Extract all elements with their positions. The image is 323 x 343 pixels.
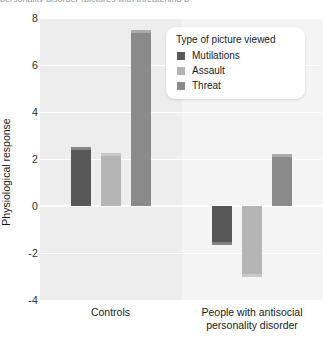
gridline <box>40 300 323 301</box>
bar <box>242 206 262 277</box>
bar-highlight <box>212 242 232 245</box>
y-axis-tick-label: -4 <box>8 294 38 306</box>
gridline <box>40 112 323 113</box>
legend-entry: Threat <box>177 80 296 91</box>
bar-highlight <box>131 30 151 33</box>
y-axis-tick-label: -2 <box>8 247 38 259</box>
x-axis-label-controls: Controls <box>40 306 181 319</box>
legend-swatch-icon <box>177 82 185 90</box>
bar <box>212 206 232 245</box>
bar-highlight <box>101 153 121 156</box>
bar-highlight <box>242 274 262 277</box>
y-axis-tick-label: 8 <box>8 12 38 24</box>
legend-entry-label: Threat <box>192 80 221 91</box>
x-axis-label-antisocial: People with antisocial personality disor… <box>181 306 323 331</box>
y-axis-tick-label: 2 <box>8 153 38 165</box>
bar-highlight <box>272 154 292 157</box>
clipped-caption: personality disorder (pictures with thre… <box>0 0 323 2</box>
legend-entry: Mutilations <box>177 50 296 61</box>
bar <box>131 30 151 206</box>
legend-entries: MutilationsAssaultThreat <box>175 50 296 91</box>
bar-highlight <box>71 147 91 150</box>
gridline <box>40 253 323 254</box>
y-axis-tick-label: 4 <box>8 106 38 118</box>
legend-entry-label: Assault <box>192 65 225 76</box>
legend-title: Type of picture viewed <box>176 34 296 45</box>
legend: Type of picture viewed MutilationsAssaul… <box>166 27 305 99</box>
gridline <box>40 18 323 19</box>
legend-swatch-icon <box>177 67 185 75</box>
bar <box>71 147 91 206</box>
legend-swatch-icon <box>177 52 185 60</box>
legend-entry-label: Mutilations <box>192 50 240 61</box>
bar <box>272 154 292 206</box>
legend-entry: Assault <box>177 65 296 76</box>
y-axis-tick-label: 0 <box>8 200 38 212</box>
bar <box>101 153 121 206</box>
y-axis-tick-label: 6 <box>8 59 38 71</box>
chart-figure: personality disorder (pictures with thre… <box>0 0 323 343</box>
